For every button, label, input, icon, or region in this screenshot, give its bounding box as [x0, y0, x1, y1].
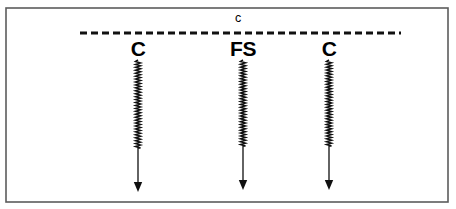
figure-border [6, 8, 448, 202]
element-label: FS [230, 37, 256, 60]
element-label: C [322, 37, 337, 60]
diagram-canvas: c CFSC [0, 0, 456, 209]
element-label: C [131, 37, 146, 60]
ceiling-label: c [235, 11, 241, 25]
spring-suspension-diagram: c CFSC [0, 0, 456, 209]
